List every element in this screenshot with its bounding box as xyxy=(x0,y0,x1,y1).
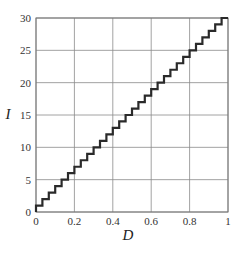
y-tick-label: 10 xyxy=(20,141,32,153)
y-axis-label: I xyxy=(5,106,12,122)
y-tick-label: 5 xyxy=(26,174,32,186)
y-tick-label: 15 xyxy=(20,109,32,121)
y-tick-label: 20 xyxy=(20,77,32,89)
x-axis-ticks: 00.20.40.60.81 xyxy=(33,215,231,227)
x-tick-label: 0 xyxy=(33,215,39,227)
x-tick-label: 0.6 xyxy=(144,215,158,227)
y-tick-label: 25 xyxy=(20,44,32,56)
y-axis-ticks: 051015202530 xyxy=(20,12,32,218)
staircase-chart: 00.20.40.60.81 051015202530 D I xyxy=(0,0,241,256)
y-tick-label: 30 xyxy=(20,12,32,24)
x-tick-label: 0.2 xyxy=(68,215,82,227)
x-tick-label: 1 xyxy=(225,215,231,227)
y-tick-label: 0 xyxy=(26,206,32,218)
x-tick-label: 0.8 xyxy=(183,215,197,227)
x-tick-label: 0.4 xyxy=(106,215,120,227)
x-axis-label: D xyxy=(122,227,134,243)
